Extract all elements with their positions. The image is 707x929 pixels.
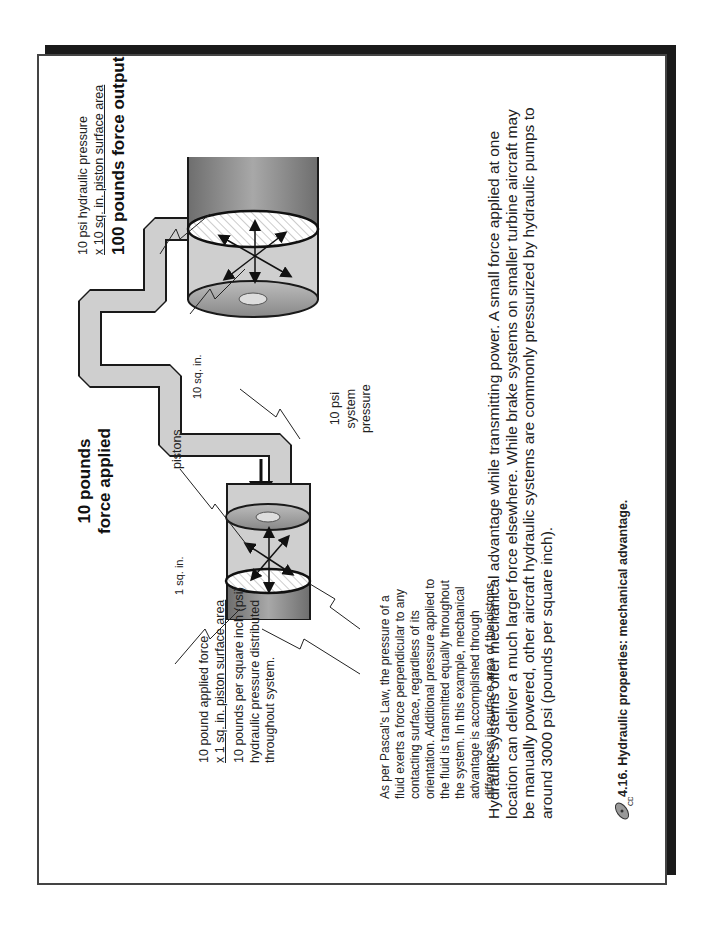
pistons-label: pistons (170, 429, 186, 469)
piston-area-large-label: 10 sq. in. (190, 354, 206, 399)
cd-icon: CD (610, 797, 634, 821)
svg-text:CD: CD (627, 797, 634, 806)
body-paragraph: Hydraulic systems offer mechanical advan… (485, 99, 555, 819)
system-pressure-label: 10 psi system pressure (328, 384, 375, 433)
rotated-document-page: 10 pounds force applied 10 psi hydraulic… (0, 0, 707, 929)
input-calc: 10 pound applied force x 1 sq. in. pisto… (197, 587, 279, 763)
piston-area-small-label: 1 sq. in. (172, 556, 188, 595)
force-applied-label: 10 pounds force applied (75, 428, 115, 534)
pascal-law-note: As per Pascal's Law, the pressure of a f… (378, 579, 498, 799)
figure-caption: 4.16. Hydraulic properties: mechanical a… (616, 500, 630, 797)
output-calc: 10 psi hydraulic pressure x 10 sq. in. p… (76, 57, 129, 255)
